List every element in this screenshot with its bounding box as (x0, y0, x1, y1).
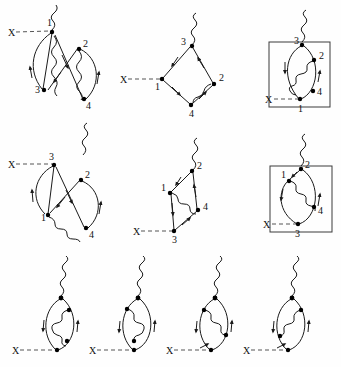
vertex-dot (125, 307, 129, 311)
vertex-dot (52, 163, 56, 167)
vertex-label: 3 (181, 36, 186, 47)
vertex-dot (172, 229, 176, 233)
vertex-dot (168, 191, 172, 195)
vertex-dot (42, 88, 46, 92)
external-label-x: X (243, 345, 251, 356)
vertex-dot (298, 97, 302, 101)
vertex-label: 1 (47, 17, 52, 28)
vertex-dot (299, 308, 303, 312)
vertex-label: 1 (155, 81, 160, 92)
vertex-dot (190, 44, 194, 48)
vertex-dot (196, 208, 200, 212)
vertex-dot (77, 47, 81, 51)
vertex-label: 2 (219, 72, 224, 83)
external-label-x: X (265, 94, 273, 105)
vertex-label: 4 (203, 201, 208, 212)
external-label-x: X (166, 345, 174, 356)
vertex-label: 4 (318, 205, 323, 216)
external-label-x: X (120, 74, 128, 85)
vertex-label: 3 (172, 234, 177, 245)
vertex-dot (136, 296, 141, 301)
vertex-dot (278, 334, 282, 338)
vertex-label: 4 (317, 86, 322, 97)
external-label-x: X (263, 219, 271, 230)
vertex-dot (286, 348, 290, 352)
vertex-dot (189, 103, 193, 107)
vertex-dot (50, 30, 54, 34)
vertex-dot (84, 226, 88, 230)
vertex-dot (132, 339, 136, 343)
vertex-label: 1 (161, 182, 166, 193)
vertex-dot (202, 308, 206, 312)
external-label-x: X (8, 159, 16, 170)
figure-background (0, 0, 341, 367)
vertex-dot (296, 222, 300, 226)
vertex-label: 2 (319, 50, 324, 61)
vertex-label: 4 (89, 229, 94, 240)
external-label-x: X (133, 226, 141, 237)
vertex-dot (67, 308, 71, 312)
vertex-label: 3 (49, 151, 54, 162)
feynman-diagram-figure: X 1 2 3 4 X (0, 0, 341, 367)
vertex-dot (79, 178, 83, 182)
vertex-dot (300, 43, 304, 47)
vertex-dot (213, 296, 218, 301)
vertex-dot (59, 296, 64, 301)
vertex-dot (46, 213, 50, 217)
vertex-dot (299, 167, 303, 171)
vertex-label: 2 (197, 160, 202, 171)
vertex-label: 2 (83, 38, 88, 49)
vertex-label: 3 (35, 84, 40, 95)
external-label-x: X (12, 345, 20, 356)
vertex-label: 3 (294, 35, 299, 46)
vertex-dot (132, 348, 136, 352)
vertex-dot (311, 89, 315, 93)
vertex-dot (312, 205, 316, 209)
vertex-dot (312, 58, 316, 62)
vertex-dot (55, 348, 59, 352)
vertex-label: 1 (41, 212, 46, 223)
vertex-dot (287, 179, 291, 183)
figure-canvas: X 1 2 3 4 X (0, 0, 341, 367)
external-label-x: X (89, 345, 97, 356)
vertex-label: 4 (86, 100, 91, 111)
vertex-label: 3 (295, 228, 300, 239)
vertex-dot (209, 348, 213, 352)
vertex-dot (190, 169, 194, 173)
vertex-dot (212, 82, 216, 86)
vertex-dot (224, 333, 228, 337)
vertex-dot (65, 339, 69, 343)
vertex-label: 2 (305, 159, 310, 170)
vertex-label: 1 (281, 169, 286, 180)
external-label-x: X (8, 27, 16, 38)
vertex-dot (290, 296, 295, 301)
vertex-label: 2 (85, 169, 90, 180)
vertex-label: 4 (189, 108, 194, 119)
vertex-dot (160, 77, 164, 81)
vertex-label: 1 (298, 103, 303, 114)
